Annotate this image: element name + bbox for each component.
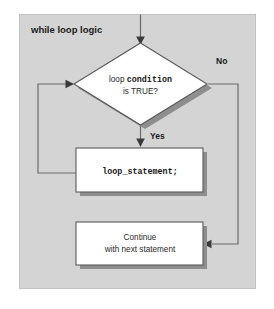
false-branch-label: No bbox=[216, 56, 227, 66]
flowchart-canvas: while loop logic loop condition is TRUE?… bbox=[0, 0, 274, 309]
decision-prefix: loop bbox=[109, 75, 127, 84]
decision-emphasis: condition bbox=[127, 75, 172, 85]
continue-label-line-2: with next statement bbox=[104, 245, 176, 254]
true-branch-label: Yes bbox=[150, 131, 165, 141]
continue-node[interactable] bbox=[76, 222, 203, 265]
flowchart-page: while loop logic loop condition is TRUE?… bbox=[0, 0, 274, 309]
decision-line-2: is TRUE? bbox=[123, 87, 158, 96]
diagram-title: while loop logic bbox=[30, 24, 102, 35]
continue-label-line-1: Continue bbox=[124, 233, 157, 242]
statement-label: loop_statement; bbox=[102, 167, 177, 177]
decision-line-1: loop condition bbox=[109, 75, 172, 85]
